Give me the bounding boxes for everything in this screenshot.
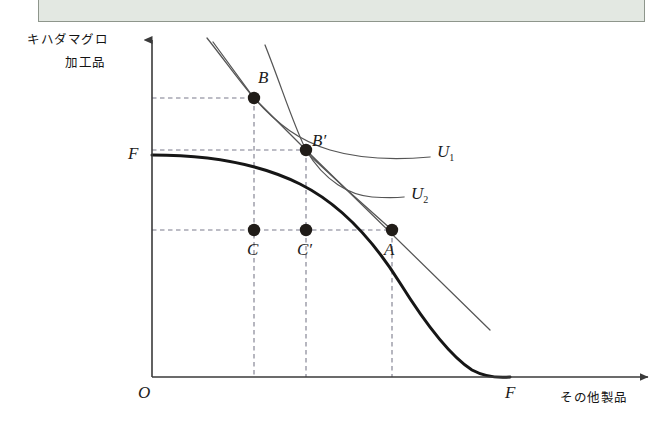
curve-label-u1-base: U — [437, 142, 449, 161]
curve-label-u2-base: U — [411, 184, 423, 203]
curve-label-u2-subscript: 2 — [423, 194, 428, 205]
point-label-c: C — [247, 240, 258, 260]
data-points-group — [248, 92, 398, 236]
point-label-a: A — [384, 240, 394, 260]
point-label-b: B — [258, 68, 268, 88]
x-intercept-label-f: F — [505, 383, 515, 403]
y-axis-label-line1: キハダマグロ — [27, 29, 108, 48]
production-possibility-frontier — [152, 155, 510, 377]
point-label-cprime: C′ — [297, 240, 312, 260]
point-b — [248, 92, 260, 104]
point-bprime — [300, 144, 312, 156]
guide-lines-group — [152, 98, 392, 377]
x-axis-label: その他製品 — [560, 387, 628, 406]
point-a — [386, 224, 398, 236]
curve-label-u1-subscript: 1 — [449, 152, 454, 163]
indifference-curve-u2 — [265, 45, 404, 198]
point-label-bprime: B′ — [312, 131, 326, 151]
point-cprime — [300, 224, 312, 236]
curve-label-u2: U2 — [411, 184, 428, 205]
curve-label-u1: U1 — [437, 142, 454, 163]
y-intercept-label-f: F — [128, 144, 138, 164]
point-c — [248, 224, 260, 236]
origin-label: O — [138, 383, 150, 403]
diagram-page: キハダマグロ 加工品 その他製品 O F F B B′ C C′ A U1 U2 — [0, 0, 658, 428]
y-axis-label-line2: 加工品 — [65, 52, 106, 71]
